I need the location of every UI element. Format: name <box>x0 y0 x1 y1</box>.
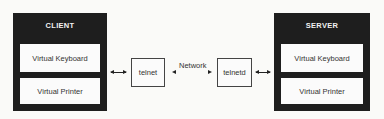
telnetd-box: telnetd <box>217 58 252 87</box>
server-virtual-printer: Virtual Printer <box>281 78 363 104</box>
server-title: SERVER <box>274 21 370 30</box>
network-label: Network <box>179 61 207 70</box>
client-virtual-keyboard: Virtual Keyboard <box>20 44 100 72</box>
client-box: CLIENT Virtual Keyboard Virtual Printer <box>13 13 107 111</box>
telnetd-server-arrow <box>256 72 270 73</box>
server-virtual-keyboard: Virtual Keyboard <box>281 44 363 72</box>
server-box: SERVER Virtual Keyboard Virtual Printer <box>274 13 370 111</box>
telnet-box: telnet <box>131 58 165 87</box>
client-title: CLIENT <box>13 21 107 30</box>
client-virtual-printer: Virtual Printer <box>20 78 100 104</box>
client-telnet-arrow <box>111 72 126 73</box>
network-arrow-left <box>172 70 176 74</box>
network-arrow-right <box>208 70 212 74</box>
